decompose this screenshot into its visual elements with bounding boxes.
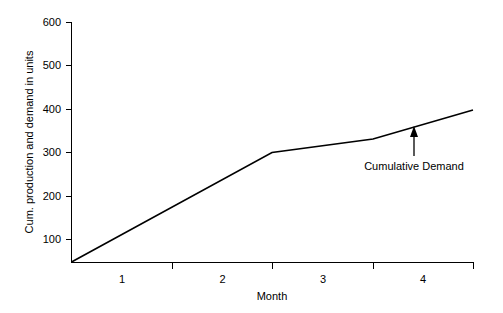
y-axis-title: Cum. production and demand in units [23, 50, 35, 233]
x-tick-label-4: 4 [420, 273, 426, 285]
y-tick-label-100: 100 [43, 233, 61, 245]
x-tick-label-2: 2 [219, 273, 225, 285]
y-tick-label-600: 600 [43, 16, 61, 28]
y-tick-label-500: 500 [43, 59, 61, 71]
line-chart: 600 500 400 300 200 100 1 2 3 4 Month Cu… [0, 0, 503, 313]
y-tick-label-400: 400 [43, 103, 61, 115]
cumulative-demand-annotation-label: Cumulative Demand [364, 160, 464, 172]
y-tick-label-300: 300 [43, 146, 61, 158]
x-axis-title: Month [257, 290, 288, 302]
y-tick-label-200: 200 [43, 190, 61, 202]
x-tick-label-1: 1 [119, 273, 125, 285]
chart-container: 600 500 400 300 200 100 1 2 3 4 Month Cu… [0, 0, 503, 313]
x-tick-label-3: 3 [320, 273, 326, 285]
